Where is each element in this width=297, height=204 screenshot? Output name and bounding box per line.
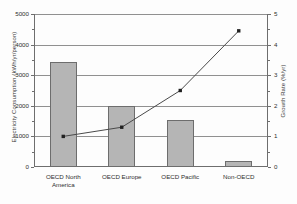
y-axis-right-tick-label: 2	[274, 102, 290, 109]
y-axis-right-minor-tickmark	[268, 29, 270, 30]
y-axis-left-tick-label: 4000	[7, 41, 29, 48]
x-axis-category-label: OECD North America	[33, 173, 93, 188]
growth-rate-markers	[62, 29, 241, 138]
y-axis-right-tickmark	[268, 75, 271, 76]
y-axis-right-tick-label: 5	[274, 10, 290, 17]
y-axis-right-tick-label: 3	[274, 71, 290, 78]
chart-container: Electricity Consumption (kWh/yr/person) …	[0, 0, 297, 204]
y-axis-right-tick-label: 4	[274, 41, 290, 48]
y-axis-left-tick-label: 2000	[7, 102, 29, 109]
x-axis-category-label: OECD Europe	[92, 173, 152, 181]
y-axis-right-tickmark	[268, 167, 271, 168]
y-axis-right-minor-tickmark	[268, 152, 270, 153]
y-axis-left-tick-label: 1000	[7, 132, 29, 139]
y-axis-left-tick-label: 5000	[7, 10, 29, 17]
growth-rate-line	[63, 31, 239, 137]
data-point-marker	[237, 29, 240, 32]
y-axis-right-tickmark	[268, 14, 271, 15]
y-axis-right-tickmark	[268, 45, 271, 46]
plot-area	[34, 14, 268, 167]
y-axis-left-tick-label: 3000	[7, 71, 29, 78]
data-point-marker	[120, 126, 123, 129]
y-axis-right-tickmark	[268, 106, 271, 107]
y-axis-right-tickmark	[268, 136, 271, 137]
y-axis-right-minor-tickmark	[268, 121, 270, 122]
data-point-marker	[62, 135, 65, 138]
y-axis-right-minor-tickmark	[268, 91, 270, 92]
y-axis-left-tickmark	[31, 167, 34, 168]
x-axis-category-label: Non-OECD	[209, 173, 269, 181]
x-axis-category-label: OECD Pacific	[150, 173, 210, 181]
y-axis-right-tick-label: 1	[274, 132, 290, 139]
y-axis-right-tick-label: 0	[274, 163, 290, 170]
y-axis-right-minor-tickmark	[268, 60, 270, 61]
data-point-marker	[179, 89, 182, 92]
line-series	[34, 14, 268, 167]
y-axis-left-tick-label: 0	[7, 163, 29, 170]
